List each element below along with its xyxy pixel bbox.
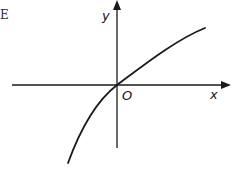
graph-figure: E y O x <box>0 0 231 169</box>
function-curve <box>68 28 205 163</box>
y-axis-arrow-icon <box>113 0 121 10</box>
option-label: E <box>0 9 9 21</box>
graph-canvas <box>0 0 231 169</box>
x-axis-label: x <box>210 88 218 101</box>
x-axis-arrow-icon <box>221 81 231 89</box>
origin-label: O <box>122 89 132 102</box>
y-axis-label: y <box>102 9 110 22</box>
